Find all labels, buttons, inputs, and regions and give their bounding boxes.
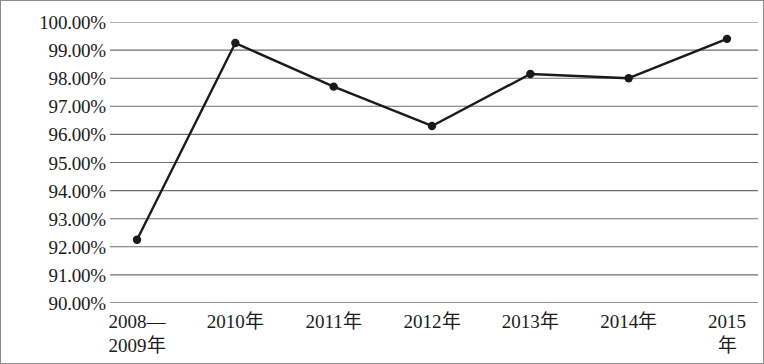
data-point-marker bbox=[526, 70, 534, 78]
y-tick-label: 93.00% bbox=[49, 209, 106, 228]
x-tick-label: 2012年 bbox=[404, 310, 461, 334]
data-point-marker bbox=[428, 122, 436, 130]
plot-svg bbox=[110, 22, 758, 303]
x-tick-label: 2015年 bbox=[708, 310, 746, 358]
data-point-marker bbox=[231, 39, 239, 47]
y-tick-label: 96.00% bbox=[49, 125, 106, 144]
data-point-marker bbox=[329, 82, 337, 90]
x-tick-label: 2014年 bbox=[600, 310, 657, 334]
x-axis: 2008— 2009年2010年2011年2012年2013年2014年2015… bbox=[110, 306, 758, 364]
data-point-marker bbox=[133, 236, 141, 244]
x-tick-label: 2008— 2009年 bbox=[109, 310, 166, 358]
y-axis: 100.00%99.00%98.00%97.00%96.00%95.00%94.… bbox=[6, 0, 106, 364]
y-tick-label: 98.00% bbox=[49, 69, 106, 88]
x-tick-label: 2011年 bbox=[306, 310, 362, 334]
data-point-marker bbox=[624, 74, 632, 82]
line-chart-figure: 100.00%99.00%98.00%97.00%96.00%95.00%94.… bbox=[0, 0, 764, 364]
y-tick-label: 99.00% bbox=[49, 41, 106, 60]
y-tick-label: 97.00% bbox=[49, 97, 106, 116]
y-tick-label: 91.00% bbox=[49, 265, 106, 284]
y-tick-label: 95.00% bbox=[49, 153, 106, 172]
y-tick-label: 90.00% bbox=[49, 294, 106, 313]
y-tick-label: 92.00% bbox=[49, 237, 106, 256]
plot-area bbox=[110, 22, 758, 303]
data-point-marker bbox=[723, 35, 731, 43]
x-tick-label: 2010年 bbox=[207, 310, 264, 334]
y-tick-label: 100.00% bbox=[39, 13, 106, 32]
y-tick-label: 94.00% bbox=[49, 181, 106, 200]
series-line bbox=[137, 39, 727, 240]
x-tick-label: 2013年 bbox=[502, 310, 559, 334]
